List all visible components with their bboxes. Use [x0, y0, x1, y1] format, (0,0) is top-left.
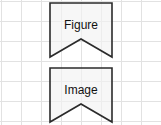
drawing-canvas: Figure Image	[0, 0, 161, 125]
banner-label-figure: Figure	[50, 19, 112, 31]
banner-label-image: Image	[50, 84, 112, 96]
